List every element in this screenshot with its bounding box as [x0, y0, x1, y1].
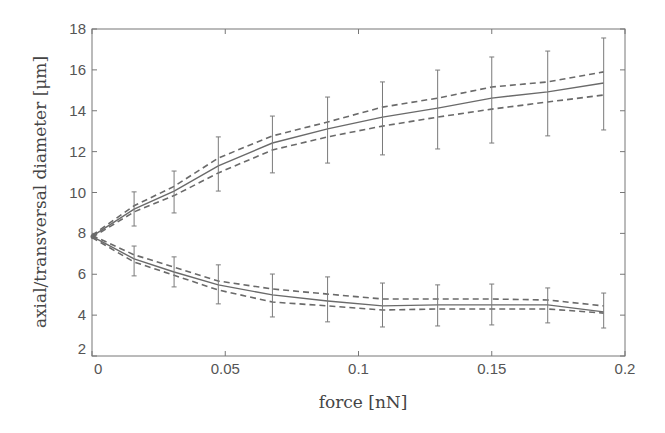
error-bar — [132, 246, 137, 276]
error-bar — [489, 57, 494, 143]
error-bar — [545, 51, 550, 136]
y-tick-label: 8 — [78, 224, 86, 241]
origin-marker — [91, 234, 96, 239]
error-bar — [325, 277, 330, 322]
axial-diameter-mean-line — [92, 83, 604, 236]
x-tick-label: 0.05 — [211, 360, 240, 377]
chart: 00.050.10.150.2 24681012141618 force [nN… — [0, 0, 665, 433]
x-axis-label: force [nN] — [319, 392, 408, 412]
axial-diameter-upper-bound-line — [92, 72, 604, 236]
y-tick-label: 16 — [69, 61, 86, 78]
error-bar — [380, 283, 385, 327]
y-tick-label: 12 — [69, 143, 86, 160]
y-axis-ticks: 24681012141618 — [69, 20, 625, 357]
x-tick-label: 0.15 — [477, 360, 506, 377]
y-tick-label: 4 — [78, 306, 86, 323]
series-layer — [91, 72, 604, 313]
error-bar — [216, 137, 221, 191]
error-bar — [601, 293, 606, 328]
y-tick-label: 10 — [69, 184, 86, 201]
error-bar — [380, 82, 385, 155]
error-bar — [435, 70, 440, 149]
y-tick-label: 14 — [69, 102, 86, 119]
y-tick-label: 2 — [78, 340, 86, 357]
y-tick-label: 18 — [69, 20, 86, 37]
y-axis-label: axial/transversal diameter [μm] — [30, 56, 50, 328]
x-tick-label: 0.1 — [348, 360, 369, 377]
y-tick-label: 6 — [78, 265, 86, 282]
x-tick-label: 0.2 — [615, 360, 636, 377]
transversal-diameter-lower-bound-line — [92, 238, 604, 314]
x-tick-label: 0 — [94, 360, 102, 377]
